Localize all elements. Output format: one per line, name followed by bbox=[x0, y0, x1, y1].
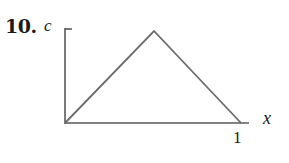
triangle-line bbox=[65, 31, 241, 123]
triangle-plot bbox=[0, 0, 289, 163]
